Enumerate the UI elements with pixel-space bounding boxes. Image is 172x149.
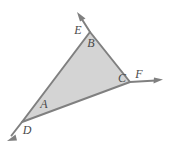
- ray-down-left-line: [12, 122, 23, 136]
- label-C: C: [118, 71, 127, 85]
- ray-down-left-through-d: [7, 122, 22, 141]
- label-A: A: [39, 97, 48, 111]
- arrowhead-right-icon: [154, 78, 164, 84]
- label-E: E: [73, 23, 82, 37]
- geometry-canvas: E B A D C F: [0, 0, 172, 149]
- triangle-shape: [22, 32, 130, 122]
- label-D: D: [22, 123, 32, 137]
- label-F: F: [134, 67, 143, 81]
- geometry-figure: E B A D C F: [0, 0, 172, 149]
- arrowhead-up-icon: [77, 12, 86, 22]
- label-B: B: [87, 36, 95, 50]
- ray-right-line: [130, 81, 156, 83]
